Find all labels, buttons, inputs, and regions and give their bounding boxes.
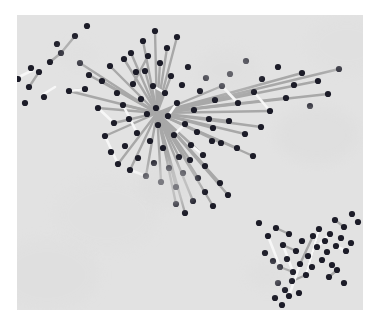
scatter-point: [191, 107, 197, 113]
scatter-point: [185, 64, 191, 70]
scatter-point: [349, 211, 355, 217]
scatter-point: [273, 225, 279, 231]
scatter-point: [77, 60, 83, 66]
figure-container: [0, 0, 380, 325]
scatter-point: [258, 124, 264, 130]
scatter-point: [227, 71, 233, 77]
scatter-point: [174, 34, 180, 40]
scatter-point: [226, 118, 232, 124]
scatter-point: [279, 302, 285, 308]
scatter-point: [36, 69, 42, 75]
scatter-point: [206, 116, 212, 122]
scatter-point: [256, 220, 262, 226]
scatter-point: [267, 108, 273, 114]
scatter-point: [286, 293, 292, 299]
scatter-point: [133, 69, 139, 75]
scatter-point: [126, 116, 132, 122]
scatter-point: [86, 72, 92, 78]
scatter-point: [160, 145, 166, 151]
scatter-point: [299, 70, 305, 76]
scatter-point: [134, 130, 140, 136]
scatter-point: [290, 269, 296, 275]
scatter-point: [324, 249, 330, 255]
scatter-point: [120, 102, 126, 108]
scatter-plot-svg: [17, 15, 363, 310]
scatter-point: [111, 120, 117, 126]
scatter-point: [194, 129, 200, 135]
scatter-point: [310, 233, 316, 239]
scatter-point: [115, 161, 121, 167]
scatter-point: [173, 201, 179, 207]
scatter-point: [66, 88, 72, 94]
scatter-point: [72, 33, 78, 39]
scatter-point: [333, 243, 339, 249]
scatter-point: [166, 165, 172, 171]
scatter-point: [28, 65, 34, 71]
scatter-point: [99, 78, 105, 84]
scatter-point: [202, 189, 208, 195]
scatter-point: [325, 91, 331, 97]
scatter-point: [212, 97, 218, 103]
scatter-point: [307, 103, 313, 109]
scatter-point: [322, 238, 328, 244]
scatter-point: [341, 224, 347, 230]
scatter-point: [26, 84, 32, 90]
scatter-point: [82, 86, 88, 92]
scatter-point: [327, 231, 333, 237]
scatter-point: [242, 131, 248, 137]
scatter-point: [219, 83, 225, 89]
scatter-point: [144, 111, 150, 117]
scatter-point: [348, 240, 354, 246]
scatter-point: [180, 170, 186, 176]
scatter-point: [280, 242, 286, 248]
scatter-point: [284, 256, 290, 262]
scatter-point: [152, 28, 158, 34]
scatter-point: [277, 264, 283, 270]
scatter-point: [54, 41, 60, 47]
scatter-point: [316, 226, 322, 232]
scatter-point: [210, 203, 216, 209]
scatter-point: [58, 50, 64, 56]
scatter-point: [297, 261, 303, 267]
scatter-point: [176, 154, 182, 160]
scatter-point: [158, 179, 164, 185]
scatter-point: [210, 125, 216, 131]
scatter-point: [218, 140, 224, 146]
scatter-point: [195, 175, 201, 181]
scatter-point: [309, 264, 315, 270]
scatter-point: [202, 163, 208, 169]
scatter-point: [270, 258, 276, 264]
scatter-point: [243, 58, 249, 64]
scatter-point: [153, 105, 159, 111]
scatter-point: [250, 153, 256, 159]
scatter-point: [179, 82, 185, 88]
scatter-point: [121, 56, 127, 62]
scatter-point: [355, 219, 361, 225]
scatter-point: [127, 167, 133, 173]
scatter-point: [259, 76, 265, 82]
scatter-point: [47, 59, 53, 65]
scatter-point: [299, 238, 305, 244]
scatter-point: [122, 143, 128, 149]
scatter-point: [143, 173, 149, 179]
scatter-point: [182, 210, 188, 216]
highlight-streak: [42, 87, 55, 95]
highlight-streaks-layer: [19, 70, 346, 296]
scatter-point: [303, 272, 309, 278]
scatter-point: [283, 95, 289, 101]
scatter-point: [275, 64, 281, 70]
scatter-point: [138, 96, 144, 102]
scatter-point: [289, 278, 295, 284]
scatter-point: [343, 248, 349, 254]
scatter-point: [114, 90, 120, 96]
scatter-point: [209, 138, 215, 144]
scatter-point: [130, 81, 136, 87]
scatter-point: [41, 94, 47, 100]
scatter-point: [326, 274, 332, 280]
scatter-point: [108, 149, 114, 155]
scatter-point: [291, 82, 297, 88]
scatter-point: [329, 262, 335, 268]
scatter-point: [251, 89, 257, 95]
scatter-point: [165, 113, 171, 119]
displacement-ray: [61, 36, 75, 53]
